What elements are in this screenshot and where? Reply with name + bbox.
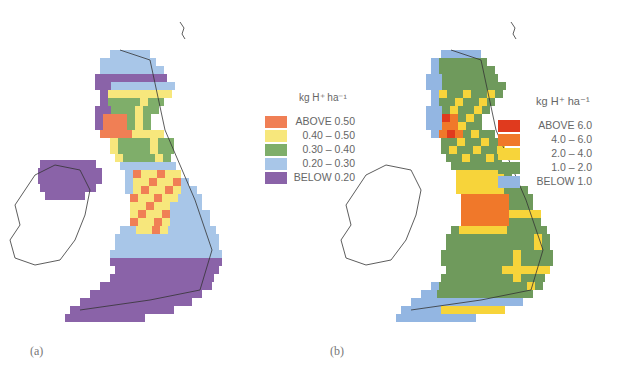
legend-item: BELOW 1.0 [498,175,592,189]
legend-label: BELOW 1.0 [537,175,592,187]
legend-item: 4.0 – 6.0 [498,133,592,147]
legend-swatch [265,172,287,184]
legend-swatch [265,116,287,128]
map-panel-b: kg H⁺ ha⁻¹ ABOVE 6.0 4.0 – 6.0 2.0 – 4.0… [316,0,632,380]
panel-caption-b: (b) [330,344,344,359]
legend-swatch [498,120,520,132]
legend-swatch [265,144,287,156]
legend-item: 1.0 – 2.0 [498,161,592,175]
legend-swatch [498,148,520,160]
legend-unit: kg H⁺ ha⁻¹ [536,95,590,108]
panel-caption-a: (a) [30,344,43,359]
legend-label: 4.0 – 6.0 [551,133,592,145]
legend-label: 2.0 – 4.0 [551,147,592,159]
legend-item: 2.0 – 4.0 [498,147,592,161]
legend-swatch [498,134,520,146]
map-panel-a: kg H⁺ ha⁻¹ ABOVE 0.50 0.40 – 0.50 0.30 –… [0,0,316,380]
legend-b: kg H⁺ ha⁻¹ ABOVE 6.0 4.0 – 6.0 2.0 – 4.0… [498,95,598,205]
legend-label: 1.0 – 2.0 [551,161,592,173]
legend-swatch [498,176,520,188]
legend-swatch [498,162,520,174]
legend-swatch [265,130,287,142]
legend-swatch [265,158,287,170]
legend-label: ABOVE 6.0 [538,119,592,131]
legend-item: ABOVE 6.0 [498,119,592,133]
